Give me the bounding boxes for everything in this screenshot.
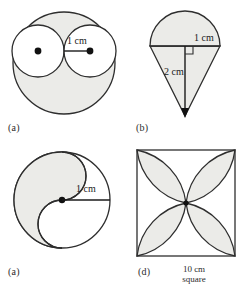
dimension-label-2cm: 2 cm xyxy=(164,66,184,77)
apex-arrow-head xyxy=(181,108,189,118)
caption-line-2: square xyxy=(164,274,224,284)
figure-a-drawing: 1 cm xyxy=(4,6,128,120)
figure-panel-d: (d) 10 cm square xyxy=(128,142,244,288)
petal-bottom-left xyxy=(137,203,186,256)
figure-c-drawing: 1 cm xyxy=(4,142,128,264)
petal-bottom-right xyxy=(186,203,235,256)
figure-panel-c: 1 cm (a) xyxy=(4,142,128,288)
petal-center-point xyxy=(183,200,188,205)
dimension-label-1cm: 1 cm xyxy=(67,35,87,46)
figure-panel-a: 1 cm (a) xyxy=(4,6,128,138)
petal-top-left xyxy=(137,150,186,203)
top-cut-text xyxy=(0,0,246,5)
panel-label-d: (d) xyxy=(138,266,150,277)
figure-d-caption: 10 cm square xyxy=(164,264,224,284)
figure-d-drawing xyxy=(128,142,244,264)
petal-top-right xyxy=(186,150,235,203)
panel-label-b: (b) xyxy=(136,122,148,133)
figure-panel-b: 1 cm 2 cm (b) xyxy=(128,6,244,138)
figure-b-drawing: 1 cm 2 cm xyxy=(128,6,244,120)
geometry-figure-sheet: 1 cm (a) 1 cm 2 cm (b) xyxy=(0,0,246,288)
left-center-dot xyxy=(35,48,42,55)
caption-line-1: 10 cm xyxy=(164,264,224,274)
panel-label-a: (a) xyxy=(8,122,20,133)
dimension-label-1cm: 1 cm xyxy=(194,32,214,43)
panel-label-c: (a) xyxy=(8,266,20,277)
dimension-label-1cm: 1 cm xyxy=(76,183,96,194)
right-radius-dot xyxy=(87,48,94,55)
